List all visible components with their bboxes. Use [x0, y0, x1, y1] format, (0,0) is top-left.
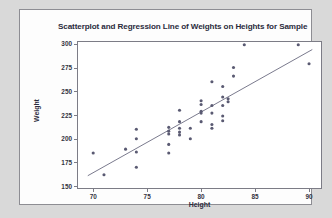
data-point: [221, 114, 224, 117]
y-tick-label: 150: [50, 183, 72, 190]
data-point: [178, 133, 181, 136]
scatterplot-canvas: [77, 41, 322, 189]
data-point: [200, 120, 203, 123]
x-tick-mark: [255, 189, 256, 192]
y-tick-mark: [74, 44, 77, 45]
data-point: [178, 109, 181, 112]
data-point: [210, 123, 213, 126]
data-point: [227, 100, 230, 103]
data-point: [232, 75, 235, 78]
data-point: [210, 80, 213, 83]
y-tick-label: 175: [50, 159, 72, 166]
data-point: [135, 128, 138, 131]
data-point: [167, 132, 170, 135]
data-point: [167, 143, 170, 146]
data-point: [221, 85, 224, 88]
page-background: Scatterplot and Regression Line of Weigh…: [0, 0, 332, 218]
data-point: [221, 95, 224, 98]
x-tick-label: 70: [83, 193, 103, 200]
x-tick-mark: [93, 189, 94, 192]
x-axis-label: Height: [77, 201, 322, 208]
x-tick-label: 80: [191, 193, 211, 200]
y-tick-label: 275: [50, 64, 72, 71]
data-point: [200, 99, 203, 102]
data-point: [167, 130, 170, 133]
data-point: [135, 137, 138, 140]
y-tick-mark: [74, 115, 77, 116]
data-point: [178, 127, 181, 130]
y-tick-mark: [74, 186, 77, 187]
x-tick-mark: [309, 189, 310, 192]
data-point: [167, 151, 170, 154]
y-tick-mark: [74, 162, 77, 163]
data-point: [200, 112, 203, 115]
y-tick-mark: [74, 68, 77, 69]
data-point: [178, 131, 181, 134]
y-tick-mark: [74, 91, 77, 92]
y-tick-label: 300: [50, 40, 72, 47]
y-tick-label: 200: [50, 135, 72, 142]
data-point: [307, 62, 310, 65]
data-point: [92, 151, 95, 154]
data-point: [167, 126, 170, 129]
x-tick-mark: [147, 189, 148, 192]
page-title: Scatterplot and Regression Line of Weigh…: [58, 22, 328, 31]
y-tick-label: 225: [50, 112, 72, 119]
data-point: [200, 103, 203, 106]
data-point: [210, 127, 213, 130]
data-point: [210, 112, 213, 115]
data-point: [135, 150, 138, 153]
x-tick-label: 75: [137, 193, 157, 200]
data-point: [227, 97, 230, 100]
y-axis-label: Weight: [33, 87, 40, 135]
data-point: [243, 43, 246, 46]
data-point: [221, 104, 224, 107]
data-point: [102, 173, 105, 176]
y-tick-mark: [74, 139, 77, 140]
data-point: [189, 127, 192, 130]
data-point: [189, 137, 192, 140]
data-point: [210, 104, 213, 107]
data-point: [124, 148, 127, 151]
data-point: [135, 166, 138, 169]
data-point: [232, 66, 235, 69]
x-tick-label: 85: [245, 193, 265, 200]
data-point: [221, 119, 224, 122]
y-tick-label: 250: [50, 88, 72, 95]
data-points-layer: [92, 43, 311, 176]
x-tick-mark: [201, 189, 202, 192]
chart-card: Scatterplot and Regression Line of Weigh…: [19, 9, 312, 205]
x-tick-label: 90: [299, 193, 319, 200]
data-point: [178, 120, 181, 123]
data-point: [297, 43, 300, 46]
